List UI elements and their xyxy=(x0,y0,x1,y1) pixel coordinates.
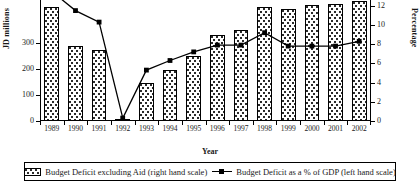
y-right-tick-label-8: 8 xyxy=(377,40,381,48)
x-tick-label-1996: 1996 xyxy=(210,124,225,133)
line-path xyxy=(52,0,359,118)
x-tick-label-1999: 1999 xyxy=(281,124,296,133)
x-tick-label-1995: 1995 xyxy=(186,124,201,133)
x-tick-label-2001: 2001 xyxy=(328,124,343,133)
x-axis-title: Year xyxy=(0,147,420,156)
y-right-tick-0 xyxy=(371,121,375,122)
y-right-tick-6 xyxy=(371,63,375,64)
line-marker-2000 xyxy=(310,44,315,49)
chart-figure: JD millions Percentage 0100200300 024681… xyxy=(0,0,420,187)
x-tick-label-2000: 2000 xyxy=(304,124,319,133)
line-marker-1994 xyxy=(168,58,173,63)
legend-label-line: Budget Deficit as a % of GDP (left hand … xyxy=(236,167,395,177)
y-right-tick-10 xyxy=(371,25,375,26)
y-right-tick-label-0: 0 xyxy=(377,117,381,125)
y-right-tick-4 xyxy=(371,83,375,84)
legend-entry-line: Budget Deficit as a % of GDP (left hand … xyxy=(212,167,395,177)
line-marker-1999 xyxy=(286,44,291,49)
line-series-budget-deficit-pct-gdp xyxy=(40,0,371,121)
legend-entry-bar: Budget Deficit excluding Aid (right hand… xyxy=(24,167,207,177)
y-right-tick-label-2: 2 xyxy=(377,98,381,106)
dotted-bar-swatch-icon xyxy=(24,168,41,176)
x-tick-label-1989: 1989 xyxy=(44,124,59,133)
y-right-tick-2 xyxy=(371,102,375,103)
line-marker-2002 xyxy=(357,39,362,44)
line-marker-1991 xyxy=(97,20,102,25)
x-tick-label-1994: 1994 xyxy=(163,124,178,133)
y-left-tick-label-200: 200 xyxy=(22,65,34,73)
y-left-tick-label-100: 100 xyxy=(22,91,34,99)
plot-area: 0100200300 024681012 xyxy=(40,0,371,121)
line-marker-swatch-icon xyxy=(212,168,232,176)
x-tick-label-1993: 1993 xyxy=(139,124,154,133)
line-marker-1990 xyxy=(73,8,78,13)
y-right-tick-label-12: 12 xyxy=(377,2,385,10)
y-right-tick-8 xyxy=(371,44,375,45)
x-tick-label-2002: 2002 xyxy=(352,124,367,133)
y-left-tick-label-0: 0 xyxy=(30,117,34,125)
line-marker-1996 xyxy=(215,43,220,48)
x-tick-label-1998: 1998 xyxy=(257,124,272,133)
y-right-tick-label-4: 4 xyxy=(377,79,381,87)
line-marker-1993 xyxy=(144,68,149,73)
y-right-tick-12 xyxy=(371,6,375,7)
y-left-tick-label-300: 300 xyxy=(22,39,34,47)
line-markers xyxy=(49,0,361,121)
y-axis-left-title: JD millions xyxy=(2,8,11,49)
legend-label-bar: Budget Deficit excluding Aid (right hand… xyxy=(45,167,207,177)
line-marker-1998 xyxy=(262,30,267,35)
line-marker-1997 xyxy=(239,43,244,48)
line-marker-1992 xyxy=(120,116,125,121)
x-tick-label-1997: 1997 xyxy=(233,124,248,133)
chart-legend: Budget Deficit excluding Aid (right hand… xyxy=(24,162,396,181)
line-marker-2001 xyxy=(333,44,338,49)
x-tick-label-1990: 1990 xyxy=(68,124,83,133)
line-marker-1995 xyxy=(191,50,196,55)
y-right-tick-label-10: 10 xyxy=(377,21,385,29)
x-axis-tick-labels: 1989199019911992199319941995199619971998… xyxy=(40,124,371,136)
x-tick-label-1991: 1991 xyxy=(92,124,107,133)
x-tick-label-1992: 1992 xyxy=(115,124,130,133)
y-right-tick-label-6: 6 xyxy=(377,59,381,67)
y-axis-right-title: Percentage xyxy=(410,8,419,48)
